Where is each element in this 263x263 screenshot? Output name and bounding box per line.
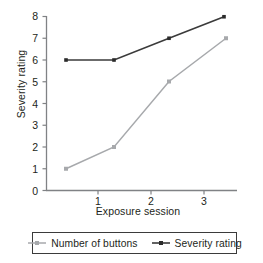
series-line-number-of-buttons xyxy=(66,38,226,169)
data-point-marker xyxy=(64,167,68,171)
y-axis-title: Severity rating xyxy=(15,29,27,139)
legend: Number of buttons Severity rating xyxy=(32,232,237,254)
legend-label-severity-rating: Severity rating xyxy=(175,238,242,249)
data-point-marker xyxy=(112,58,116,62)
chart-canvas xyxy=(0,0,263,212)
data-point-marker xyxy=(112,145,116,149)
legend-entry-number-of-buttons: Number of buttons xyxy=(27,238,137,249)
data-point-marker xyxy=(167,36,171,40)
y-tick-label-1: 1 xyxy=(18,164,38,174)
data-point-marker xyxy=(167,80,171,84)
data-point-marker xyxy=(64,58,68,62)
x-axis-title: Exposure session xyxy=(40,205,236,217)
data-point-marker xyxy=(222,15,226,19)
y-tick-label-0: 0 xyxy=(18,186,38,196)
chart-figure: 0 1 2 3 4 5 6 7 8 1 2 3 Severity rating … xyxy=(0,0,263,263)
data-point-marker xyxy=(224,36,228,40)
legend-marker-number-of-buttons xyxy=(27,239,47,247)
y-tick-label-2: 2 xyxy=(18,142,38,152)
series-severity-rating xyxy=(64,15,226,62)
series-number-of-buttons xyxy=(64,36,228,171)
legend-entry-severity-rating: Severity rating xyxy=(151,238,242,249)
legend-label-number-of-buttons: Number of buttons xyxy=(51,238,137,249)
legend-marker-severity-rating xyxy=(151,239,171,247)
y-tick-label-8: 8 xyxy=(18,11,38,21)
plot-area: 0 1 2 3 4 5 6 7 8 1 2 3 Severity rating xyxy=(0,0,263,212)
series-line-severity-rating xyxy=(66,17,224,60)
